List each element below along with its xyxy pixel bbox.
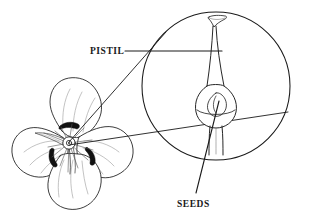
flower-pistil-diagram: PISTIL SEEDS: [0, 0, 311, 223]
pistil-label: PISTIL: [90, 46, 124, 56]
seeds-label: SEEDS: [177, 199, 210, 209]
diagram-background: [0, 0, 311, 223]
diagram-canvas: PISTIL SEEDS: [0, 0, 311, 223]
